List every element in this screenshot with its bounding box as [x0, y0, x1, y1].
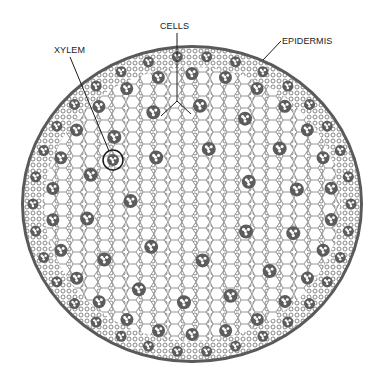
label-epidermis: EPIDERMIS — [282, 37, 332, 46]
ground-tissue — [44, 67, 340, 341]
stem-cross-section-diagram: XYLEM CELLS EPIDERMIS — [0, 0, 385, 385]
label-xylem: XYLEM — [54, 46, 85, 55]
cross-section-illustration — [0, 0, 385, 385]
label-cells: CELLS — [160, 22, 189, 31]
epidermis-leader-line — [263, 41, 281, 60]
